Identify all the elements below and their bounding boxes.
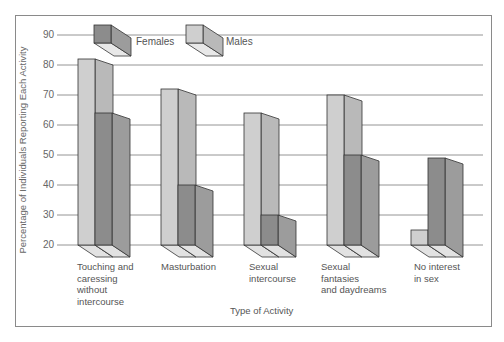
bar-females-1-side: [195, 185, 213, 257]
y-tick-90: 90: [30, 29, 54, 40]
category-label-masturbation: Masturbation: [161, 261, 216, 273]
y-tick-70: 70: [30, 89, 54, 100]
bar-females-4-side: [445, 158, 463, 257]
y-tick-40: 40: [30, 179, 54, 190]
category-label-intercourse: Sexual intercourse: [249, 261, 296, 284]
bar-females-3-front: [344, 155, 361, 245]
legend-females-swatch-front: [94, 25, 111, 43]
bar-females-1-front: [178, 185, 195, 245]
y-axis-label: Percentage of Individuals Reporting Each…: [17, 46, 28, 253]
y-tick-30: 30: [30, 209, 54, 220]
bar-males-3-front: [327, 95, 344, 245]
bar-males-2-front: [244, 113, 261, 245]
bar-males-0-front: [78, 59, 95, 245]
bar-females-3-side: [361, 155, 379, 257]
y-tick-50: 50: [30, 149, 54, 160]
bar-females-0-front: [95, 113, 112, 245]
y-tick-60: 60: [30, 119, 54, 130]
category-label-fantasies: Sexual fantasies and daydreams: [321, 261, 386, 296]
x-axis-label: Type of Activity: [230, 305, 293, 316]
bar-males-4-front: [411, 230, 428, 245]
bar-females-0-side: [112, 113, 130, 257]
legend-males-label: Males: [226, 36, 253, 47]
bar-females-4-front: [428, 158, 445, 245]
y-tick-80: 80: [30, 59, 54, 70]
bar-males-1-front: [161, 89, 178, 245]
legend-females-label: Females: [136, 36, 174, 47]
legend-males-swatch-front: [186, 25, 203, 43]
bar-females-2-front: [261, 215, 278, 245]
category-label-no-interest: No interest in sex: [414, 261, 460, 284]
bar-chart-plot: [0, 0, 504, 342]
y-tick-20: 20: [30, 239, 54, 250]
category-label-touching: Touching and caressing without intercour…: [77, 261, 134, 307]
